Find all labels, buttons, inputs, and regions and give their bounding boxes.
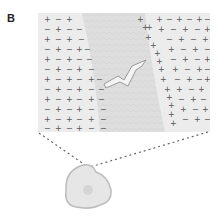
svg-text:+: + — [88, 115, 95, 124]
svg-text:−: − — [55, 35, 62, 44]
svg-text:+: + — [160, 75, 167, 84]
svg-text:+: + — [76, 65, 83, 74]
svg-text:+: + — [202, 35, 209, 44]
svg-text:−: − — [66, 124, 73, 133]
svg-text:−: − — [178, 95, 185, 104]
svg-text:+: + — [204, 75, 211, 84]
svg-text:−: − — [66, 85, 73, 94]
svg-text:−: − — [76, 95, 83, 104]
svg-text:−: − — [96, 75, 103, 84]
svg-text:−: − — [100, 115, 107, 124]
svg-text:+: + — [190, 95, 197, 104]
svg-text:+: + — [146, 23, 153, 32]
svg-text:+: + — [66, 35, 73, 44]
svg-text:−: − — [100, 105, 107, 114]
svg-text:−: − — [84, 45, 91, 54]
svg-text:−: − — [66, 25, 73, 34]
svg-text:+: + — [44, 95, 51, 104]
svg-text:+: + — [76, 124, 83, 133]
svg-text:−: − — [170, 25, 177, 34]
svg-text:−: − — [188, 85, 195, 94]
svg-text:+: + — [55, 105, 62, 114]
svg-text:+: + — [204, 55, 211, 64]
svg-text:−: − — [76, 115, 83, 124]
svg-text:−: − — [192, 105, 199, 114]
svg-text:−: − — [88, 65, 95, 74]
svg-text:−: − — [184, 65, 191, 74]
svg-text:−: − — [55, 15, 62, 24]
svg-text:+: + — [192, 45, 199, 54]
svg-text:+: + — [44, 115, 51, 124]
svg-text:−: − — [170, 55, 177, 64]
svg-text:−: − — [78, 35, 85, 44]
svg-text:+: + — [172, 65, 179, 74]
svg-text:+: + — [182, 25, 189, 34]
svg-text:+: + — [176, 85, 183, 94]
svg-text:+: + — [186, 75, 193, 84]
svg-text:−: − — [166, 35, 173, 44]
svg-text:+: + — [182, 55, 189, 64]
svg-text:−: − — [76, 75, 83, 84]
svg-text:−: − — [182, 115, 189, 124]
svg-text:−: − — [44, 124, 51, 133]
svg-text:−: − — [200, 95, 207, 104]
svg-text:−: − — [55, 55, 62, 64]
svg-text:−: − — [44, 85, 51, 94]
svg-text:−: − — [190, 35, 197, 44]
svg-text:+: + — [66, 115, 73, 124]
svg-text:+: + — [66, 15, 73, 24]
svg-text:−: − — [55, 95, 62, 104]
zoom-line-left — [39, 133, 88, 167]
svg-text:+: + — [170, 119, 177, 128]
svg-text:−: − — [88, 85, 95, 94]
svg-text:−: − — [76, 55, 83, 64]
svg-text:+: + — [158, 65, 165, 74]
svg-text:−: − — [88, 124, 95, 133]
svg-text:−: − — [174, 75, 181, 84]
svg-text:+: + — [176, 15, 183, 24]
svg-text:+: + — [76, 85, 83, 94]
svg-text:+: + — [44, 55, 51, 64]
svg-text:+: + — [168, 110, 175, 119]
svg-text:−: − — [180, 45, 187, 54]
svg-text:+: + — [88, 75, 95, 84]
svg-text:−: − — [44, 25, 51, 34]
svg-text:+: + — [55, 124, 62, 133]
svg-text:−: − — [194, 55, 201, 64]
svg-text:−: − — [66, 65, 73, 74]
svg-text:−: − — [100, 124, 107, 133]
svg-text:+: + — [55, 45, 62, 54]
svg-text:+: + — [196, 15, 203, 24]
svg-text:+: + — [204, 25, 211, 34]
svg-text:−: − — [55, 75, 62, 84]
svg-text:−: − — [44, 45, 51, 54]
svg-text:−: − — [98, 85, 105, 94]
svg-text:+: + — [55, 65, 62, 74]
svg-text:+: + — [44, 35, 51, 44]
svg-text:−: − — [66, 45, 73, 54]
svg-text:−: − — [98, 95, 105, 104]
svg-text:+: + — [66, 75, 73, 84]
svg-text:+: + — [198, 85, 205, 94]
svg-text:−: − — [166, 15, 173, 24]
svg-text:+: + — [76, 45, 83, 54]
svg-text:−: − — [194, 25, 201, 34]
svg-text:−: − — [55, 115, 62, 124]
svg-text:+: + — [158, 25, 165, 34]
svg-text:−: − — [76, 25, 83, 34]
svg-text:−: − — [86, 55, 93, 64]
svg-text:−: − — [204, 65, 211, 74]
svg-text:+: + — [55, 25, 62, 34]
svg-text:+: + — [180, 105, 187, 114]
svg-text:−: − — [196, 75, 203, 84]
svg-text:−: − — [204, 15, 211, 24]
svg-text:+: + — [66, 55, 73, 64]
svg-text:−: − — [186, 15, 193, 24]
svg-text:+: + — [88, 95, 95, 104]
svg-text:+: + — [66, 95, 73, 104]
svg-text:+: + — [44, 15, 51, 24]
svg-text:−: − — [88, 105, 95, 114]
svg-text:+: + — [168, 45, 175, 54]
svg-text:−: − — [44, 65, 51, 74]
svg-text:−: − — [204, 45, 211, 54]
